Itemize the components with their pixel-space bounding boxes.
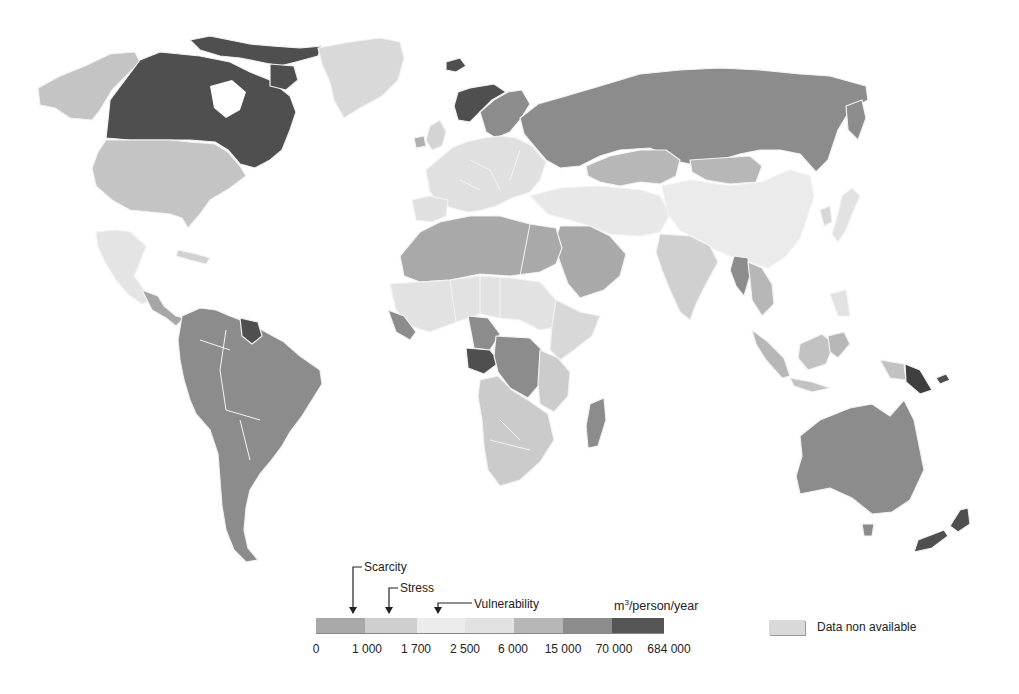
swatch-vulnerability xyxy=(417,618,465,633)
swatch-stress xyxy=(365,618,417,633)
legend-color-bar xyxy=(316,618,664,633)
legend-callout-lines xyxy=(0,0,1019,694)
tick-label: 70 000 xyxy=(596,642,633,656)
swatch-6000-15000 xyxy=(514,618,563,633)
swatch-scarcity xyxy=(316,618,365,633)
no-data-label: Data non available xyxy=(817,620,916,634)
tick-label: 1 000 xyxy=(352,642,382,656)
swatch-15000-70000 xyxy=(563,618,612,633)
stress-label: Stress xyxy=(400,581,434,595)
tick-label: 2 500 xyxy=(450,642,480,656)
scarcity-label: Scarcity xyxy=(364,560,407,574)
swatch-2500-6000 xyxy=(465,618,514,633)
tick-label: 15 000 xyxy=(545,642,582,656)
tick-label: 1 700 xyxy=(401,642,431,656)
tick-label: 6 000 xyxy=(498,642,528,656)
vulnerability-label: Vulnerability xyxy=(474,597,539,611)
no-data-swatch xyxy=(769,620,805,635)
legend-unit-label: m3/person/year xyxy=(614,598,698,613)
tick-label: 684 000 xyxy=(647,642,690,656)
tick-label: 0 xyxy=(313,642,320,656)
swatch-70000-684000 xyxy=(612,618,664,633)
